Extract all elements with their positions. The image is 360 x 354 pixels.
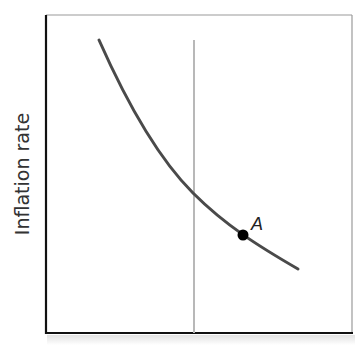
point-a-marker (238, 230, 249, 241)
chart-area: A (0, 0, 360, 354)
point-a-label: A (250, 214, 263, 234)
y-axis-label: Inflation rate (11, 113, 33, 235)
curve (99, 40, 298, 269)
